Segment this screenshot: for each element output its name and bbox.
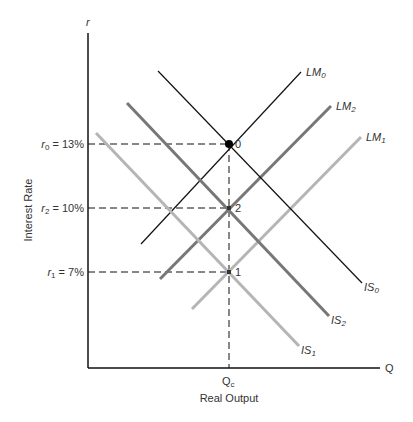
dashed-guides xyxy=(88,144,229,368)
equilibrium-point-0 xyxy=(225,140,233,148)
point-label-0: 0 xyxy=(235,138,241,150)
x-tick-label-qc: Qc xyxy=(222,375,235,389)
point-label-2: 2 xyxy=(235,202,241,214)
x-axis-symbol: Q xyxy=(385,362,394,374)
label-lm1: LM1 xyxy=(366,131,386,145)
y-tick-1: r1 = 7% xyxy=(47,266,84,280)
y-tick-0: r0 = 13% xyxy=(41,138,84,152)
y-axis-title: Interest Rate xyxy=(22,179,34,242)
label-lm2: LM2 xyxy=(336,100,356,114)
y-tick-labels: r0 = 13%r2 = 10%r1 = 7% xyxy=(41,138,84,280)
x-axis-title: Real Output xyxy=(200,392,259,404)
y-tick-2: r2 = 10% xyxy=(41,202,84,216)
point-label-1: 1 xyxy=(235,266,241,278)
label-lm0: LM0 xyxy=(306,66,326,80)
label-is2: IS2 xyxy=(331,314,346,328)
label-is0: IS0 xyxy=(364,281,379,295)
curve-is1 xyxy=(96,133,299,346)
y-axis-symbol: r xyxy=(86,16,91,28)
islm-diagram: r Q LM0LM2LM1IS0IS2IS1 021 r0 = 13%r2 = … xyxy=(0,0,413,422)
label-is1: IS1 xyxy=(301,344,316,358)
